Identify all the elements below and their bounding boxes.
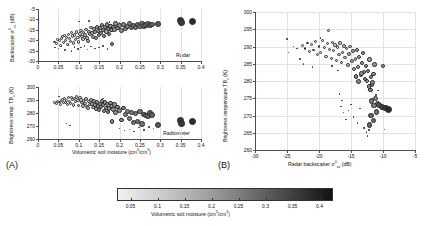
scatter-point-small [107, 48, 109, 50]
scatter-point [355, 48, 359, 52]
scatter-point [178, 120, 185, 127]
y-tick [253, 47, 256, 48]
y-tick [36, 9, 39, 10]
colorbar-tick-label: 0.4 [310, 203, 330, 209]
gridline-vertical [79, 87, 80, 139]
scatter-point [155, 21, 161, 27]
scatter-point [371, 72, 375, 76]
x-tick-label: 0.3 [150, 142, 170, 148]
x-tick-label: -30 [245, 153, 265, 159]
scatter-point-small [357, 122, 359, 124]
scatter-point-small [331, 65, 333, 67]
y-tick-label: 270 [16, 123, 35, 129]
gridline-vertical [58, 87, 59, 139]
gridline-vertical [140, 9, 141, 61]
colorbar-tick-label: 0.1 [148, 203, 168, 209]
scatter-point [310, 43, 313, 46]
x-tick-label: -25 [277, 153, 297, 159]
gridline-vertical [99, 87, 100, 139]
scatter-point-small [368, 129, 370, 131]
ylabel-text: Backscatter [9, 35, 15, 62]
scatter-point-small [77, 48, 79, 50]
x-tick-label: 0.05 [48, 64, 68, 70]
scatter-point [374, 109, 379, 114]
x-tick-label: -10 [373, 153, 393, 159]
y-tick-label: 285 [233, 61, 252, 67]
sigma-symbol: σ [9, 30, 15, 33]
scatter-point-small [350, 104, 352, 106]
colorbar-tick-label: 0.05 [121, 203, 141, 209]
x-tick-label: 0.05 [48, 142, 68, 148]
panel-a-label: (A) [6, 160, 18, 170]
gridline-horizontal [255, 116, 415, 117]
scatter-point-small [143, 129, 145, 131]
scatter-point [189, 118, 196, 125]
cb-mid: /cm [218, 211, 226, 217]
y-tick [36, 30, 39, 31]
y-tick-label: 265 [233, 130, 252, 136]
scatter-point [372, 62, 376, 66]
gridline-horizontal [255, 12, 415, 13]
sigma-sup: 0 [335, 160, 337, 164]
y-tick-label: 295 [233, 26, 252, 32]
scatter-point-small [286, 38, 288, 40]
panel-b: Brightness temperature TBv (K) Radar bac… [212, 0, 430, 175]
scatter-point [350, 59, 354, 63]
y-tick-label: -25 [16, 48, 35, 54]
colorbar [117, 188, 333, 201]
cb-label-text: Volumetric soil moisture (cm [151, 211, 216, 217]
scatter-point [359, 71, 364, 76]
y-tick-label: 290 [233, 44, 252, 50]
scatter-point [59, 44, 62, 47]
figure-root: Backscatter σ0vv (dB) Radar -5-10-15-20-… [0, 0, 430, 226]
x-tick-label: 0.1 [69, 64, 89, 70]
x-tick-label: 0 [28, 142, 48, 148]
scatter-point [189, 18, 196, 25]
gridline-vertical [160, 9, 161, 61]
scatter-point [139, 121, 144, 126]
scatter-point-small [133, 131, 135, 133]
x-tick-label: -5 [405, 153, 425, 159]
x-tick-label: 0.1 [69, 142, 89, 148]
y-tick [253, 12, 256, 13]
scatter-point [59, 103, 62, 106]
y-tick [253, 81, 256, 82]
x-tick-label: 0.35 [171, 142, 191, 148]
scatter-point [314, 40, 317, 43]
scatter-point [368, 113, 374, 119]
y-tick [253, 133, 256, 134]
xlabel-text: Volumetric soil moisture (cm [72, 149, 137, 155]
colorbar-tick-label: 0.3 [256, 203, 276, 209]
colorbar-tick-label: 0.2 [202, 203, 222, 209]
x-tick-label: 0.15 [89, 64, 109, 70]
x-tick-label: 0.2 [110, 64, 130, 70]
y-tick-label: -10 [16, 16, 35, 22]
scatter-point-small [148, 126, 150, 128]
x-tick-label: 0.15 [89, 142, 109, 148]
scatter-point-small [363, 127, 365, 129]
x-tick-label: 0.25 [130, 64, 150, 70]
panel-a-top: Backscatter σ0vv (dB) Radar -5-10-15-20-… [0, 0, 210, 78]
y-tick-label: 280 [233, 78, 252, 84]
scatter-point [55, 102, 58, 105]
scatter-point-small [366, 131, 368, 133]
scatter-point [330, 57, 333, 60]
y-axis-spine [38, 9, 39, 61]
y-tick [253, 64, 256, 65]
scatter-point [55, 42, 58, 45]
y-tick-label: 280 [16, 110, 35, 116]
y-tick-label: -20 [16, 37, 35, 43]
x-tick-label: 0.25 [130, 142, 150, 148]
y-tick [253, 29, 256, 30]
scatter-point [367, 57, 371, 61]
y-tick-label: -5 [16, 6, 35, 12]
gridline-vertical [415, 12, 416, 150]
colorbar-label: Volumetric soil moisture (cm3/cm3) [151, 210, 230, 217]
scatter-point [346, 63, 350, 67]
scatter-point-small [129, 129, 131, 131]
scatter-point [316, 53, 319, 56]
y-tick [253, 98, 256, 99]
y-tick-label: 270 [233, 113, 252, 119]
colorbar-tick-label: 0.25 [229, 203, 249, 209]
scatter-point-small [102, 45, 104, 47]
